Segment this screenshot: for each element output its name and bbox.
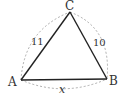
vertex-label-b: B	[109, 74, 118, 88]
vertex-label-a: A	[7, 75, 17, 89]
side-label-cb: 10	[93, 37, 106, 48]
side-ac	[21, 12, 70, 80]
vertex-label-c: C	[65, 0, 74, 13]
side-label-ab: x	[59, 83, 66, 96]
triangle-diagram: C A B 11 10 x	[0, 0, 121, 96]
side-ab	[21, 79, 107, 80]
side-label-ac: 11	[31, 36, 44, 47]
